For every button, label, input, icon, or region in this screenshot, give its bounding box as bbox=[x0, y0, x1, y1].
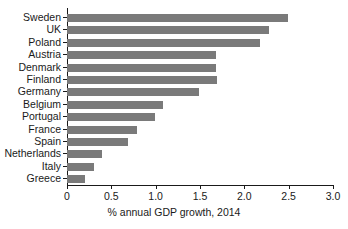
category-label: Denmark bbox=[18, 61, 61, 73]
category-label: Spain bbox=[34, 135, 61, 147]
bar bbox=[67, 88, 199, 96]
category-label: Italy bbox=[42, 160, 61, 172]
plot-area: SwedenUKPolandAustriaDenmarkFinlandGerma… bbox=[67, 8, 333, 185]
x-axis-tick-label: 0 bbox=[64, 190, 70, 202]
category-label: Poland bbox=[28, 36, 61, 48]
x-axis-tick bbox=[67, 185, 68, 189]
bar-row: UK bbox=[67, 24, 333, 36]
bar-row: Poland bbox=[67, 37, 333, 49]
bar-row: Netherlands bbox=[67, 148, 333, 160]
bar-row: Finland bbox=[67, 74, 333, 86]
bar bbox=[67, 76, 217, 84]
x-axis-tick bbox=[244, 185, 245, 189]
x-axis-tick bbox=[111, 185, 112, 189]
category-label: Finland bbox=[27, 73, 61, 85]
bar bbox=[67, 150, 102, 158]
bar-row: France bbox=[67, 124, 333, 136]
bar bbox=[67, 64, 216, 72]
x-axis-tick bbox=[200, 185, 201, 189]
bar-row: Italy bbox=[67, 161, 333, 173]
bar-row: Sweden bbox=[67, 12, 333, 24]
bar-row: Portugal bbox=[67, 111, 333, 123]
x-axis-tick-label: 1.5 bbox=[193, 190, 208, 202]
bar-row: Greece bbox=[67, 173, 333, 185]
bar-row: Spain bbox=[67, 136, 333, 148]
bar bbox=[67, 163, 94, 171]
bar bbox=[67, 175, 85, 183]
x-axis-tick bbox=[289, 185, 290, 189]
category-label: Netherlands bbox=[4, 147, 61, 159]
bar bbox=[67, 51, 216, 59]
bar bbox=[67, 14, 288, 22]
category-label: Portugal bbox=[22, 110, 61, 122]
bar bbox=[67, 126, 137, 134]
x-axis-tick-label: 1.0 bbox=[148, 190, 163, 202]
x-axis-tick-label: 0.5 bbox=[104, 190, 119, 202]
bar bbox=[67, 39, 260, 47]
x-axis-tick-label: 2.0 bbox=[237, 190, 252, 202]
x-axis-tick bbox=[156, 185, 157, 189]
category-label: Greece bbox=[27, 172, 61, 184]
category-label: Austria bbox=[28, 48, 61, 60]
bar-row: Belgium bbox=[67, 99, 333, 111]
gdp-growth-bar-chart: SwedenUKPolandAustriaDenmarkFinlandGerma… bbox=[0, 0, 348, 229]
bar-row: Germany bbox=[67, 86, 333, 98]
x-axis-tick-label: 3.0 bbox=[326, 190, 341, 202]
x-axis-tick bbox=[333, 185, 334, 189]
bar-row: Austria bbox=[67, 49, 333, 61]
category-label: Sweden bbox=[23, 11, 61, 23]
x-axis-tick-label: 2.5 bbox=[281, 190, 296, 202]
category-label: France bbox=[28, 123, 61, 135]
bar bbox=[67, 101, 163, 109]
category-label: Germany bbox=[18, 85, 61, 97]
x-axis-title: % annual GDP growth, 2014 bbox=[0, 206, 348, 218]
bar-row: Denmark bbox=[67, 62, 333, 74]
bar bbox=[67, 113, 155, 121]
bar bbox=[67, 26, 269, 34]
category-label: UK bbox=[46, 23, 61, 35]
category-label: Belgium bbox=[23, 98, 61, 110]
bar bbox=[67, 138, 128, 146]
